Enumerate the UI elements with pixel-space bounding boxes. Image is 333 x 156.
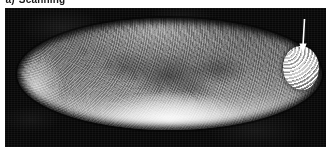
embryo-body <box>17 18 322 130</box>
page-margin-right <box>326 0 333 156</box>
panel-caption-text: Scanning <box>19 0 66 5</box>
page-margin-left <box>0 0 5 156</box>
blastoderm-texture <box>17 18 322 130</box>
figure-panel-caption: (a)Scanning <box>2 0 65 5</box>
pole-cell-arrow-icon <box>293 18 315 58</box>
page-margin-bottom <box>0 147 333 156</box>
micrograph-plate <box>5 8 326 147</box>
